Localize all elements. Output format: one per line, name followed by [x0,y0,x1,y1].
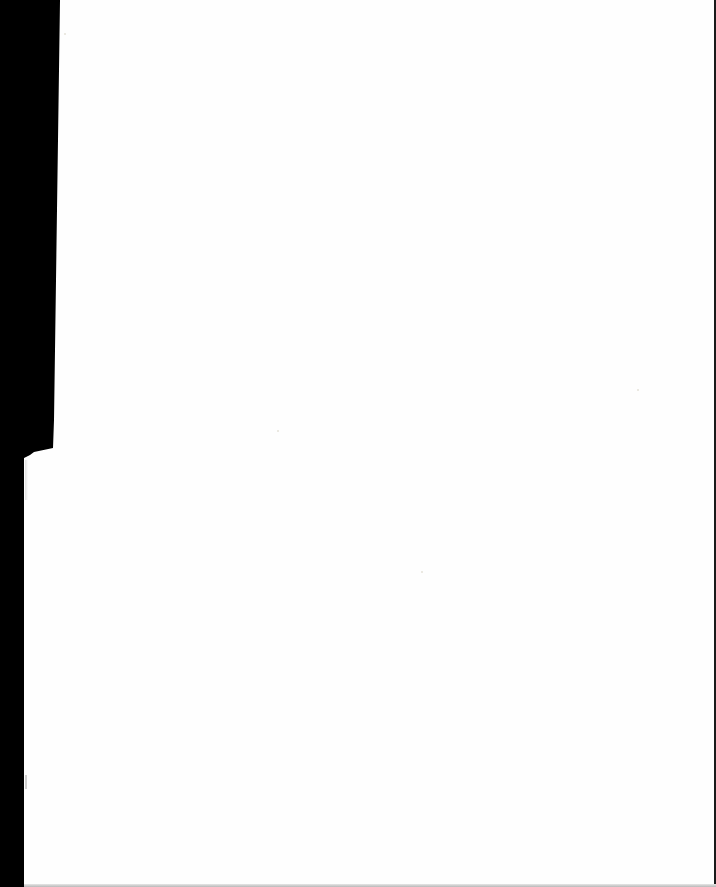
scan-speck [64,33,66,35]
blank-page [0,0,716,887]
page-edge-mark [25,775,27,789]
scan-speck [277,430,279,432]
scan-frame [0,0,716,887]
page-edge-crease [25,460,28,500]
page-content [60,0,716,887]
scan-speck [637,389,639,391]
scan-speck [421,571,423,573]
